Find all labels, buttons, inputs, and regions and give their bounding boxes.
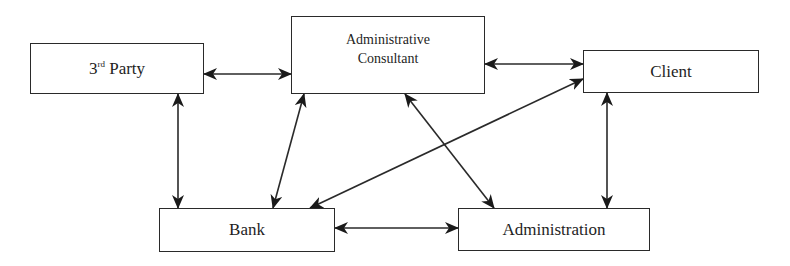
node-admin-consultant-line2: Consultant xyxy=(358,50,419,69)
node-administration-label: Administration xyxy=(503,219,606,240)
node-3rd-party: 3rd Party xyxy=(30,43,204,94)
node-3rd-party-label: 3rd Party xyxy=(89,58,145,79)
node-admin-consultant-line1: Administrative xyxy=(346,31,430,50)
diagram-canvas: 3rd Party Administrative Consultant Clie… xyxy=(0,0,790,266)
edge-client-bank xyxy=(310,79,583,208)
edge-adminconsultant-administration xyxy=(405,94,494,208)
node-administration: Administration xyxy=(458,208,650,251)
node-bank-label: Bank xyxy=(229,219,265,240)
node-bank: Bank xyxy=(159,208,335,252)
node-client-label: Client xyxy=(650,61,692,82)
edge-adminconsultant-bank xyxy=(273,94,304,208)
node-administrative-consultant: Administrative Consultant xyxy=(291,16,485,94)
node-client: Client xyxy=(583,50,759,93)
